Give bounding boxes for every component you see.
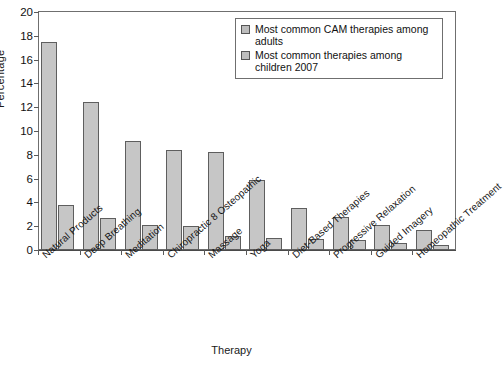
x-tick-mark [288,250,289,255]
y-tick-label: 16 [0,54,38,66]
legend-item-adults: Most common CAM therapies among adults [241,23,437,47]
y-tick-label: 8 [0,149,38,161]
legend-label: Most common therapies among children 200… [255,49,437,73]
x-tick-mark [371,250,372,255]
y-tick-label: 14 [0,77,38,89]
x-tick-mark [163,250,164,255]
y-tick-label: 18 [0,30,38,42]
legend-item-children: Most common therapies among children 200… [241,49,437,73]
legend-swatch-icon [241,25,250,34]
y-tick-label: 6 [0,173,38,185]
x-tick-mark [412,250,413,255]
bar-adults [166,150,182,250]
x-tick-mark [121,250,122,255]
y-tick-label: 2 [0,220,38,232]
y-tick-label: 20 [0,6,38,18]
bar-adults [83,102,99,250]
legend-label: Most common CAM therapies among adults [255,23,437,47]
y-tick-label: 12 [0,101,38,113]
y-tick-label: 10 [0,125,38,137]
x-axis-title: Therapy [0,344,463,356]
bar-group [41,12,74,250]
legend-swatch-icon [241,51,250,60]
bar-group [166,12,199,250]
bar-adults [208,152,224,250]
x-tick-mark [204,250,205,255]
y-tick-label: 0 [0,244,38,256]
x-tick-mark [246,250,247,255]
bar-adults [41,42,57,250]
bar-adults [125,141,141,250]
y-tick-label: 4 [0,196,38,208]
x-tick-mark [80,250,81,255]
x-tick-mark [38,250,39,255]
legend: Most common CAM therapies among adults M… [235,18,443,79]
x-tick-mark [329,250,330,255]
